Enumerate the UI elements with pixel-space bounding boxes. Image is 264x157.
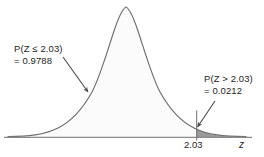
right-probability-line2: = 0.0212 (204, 85, 253, 97)
axis-label-z: z (239, 139, 244, 150)
right-probability-label: P(Z > 2.03) = 0.0212 (204, 73, 253, 96)
right-tail-shaded-region (197, 0, 257, 140)
left-probability-label: P(Z ≤ 2.03) = 0.9788 (14, 43, 63, 66)
right-probability-line1: P(Z > 2.03) (204, 73, 253, 85)
left-annotation-arrow (63, 57, 88, 92)
normal-distribution-figure: P(Z ≤ 2.03) = 0.9788 P(Z > 2.03) = 0.021… (0, 0, 264, 157)
left-probability-line2: = 0.9788 (14, 55, 63, 67)
distribution-body-fill (0, 0, 197, 140)
left-probability-line1: P(Z ≤ 2.03) (14, 43, 63, 55)
axis-tick-label-203: 2.03 (184, 139, 203, 150)
right-annotation-arrow (198, 101, 216, 127)
